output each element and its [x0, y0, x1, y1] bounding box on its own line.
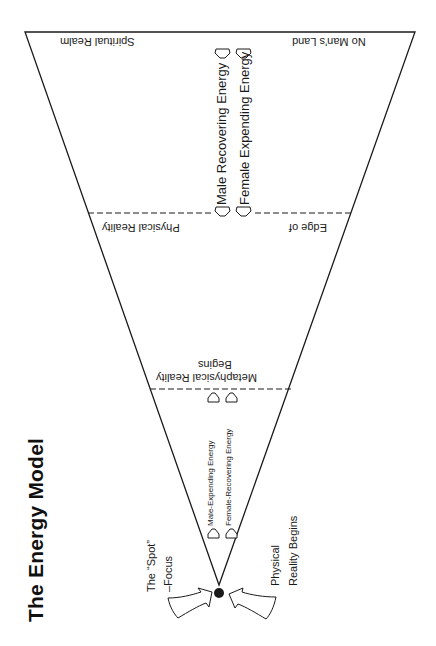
label-metaphysical-begins: Begins — [198, 359, 232, 370]
diagram-title: The Energy Model — [25, 438, 46, 622]
label-male-expending-energy: Male-Expending Energy — [207, 441, 215, 526]
label-the-spot: The “Spot” — [146, 540, 157, 592]
label-physical: Physical — [270, 545, 281, 586]
label-metaphysical-reality: Metaphysical Reality — [156, 372, 257, 383]
up-arrow-icon — [208, 393, 237, 402]
label-edge-of: Edge of — [289, 222, 327, 233]
spot-focus-arrow-icon — [168, 588, 212, 618]
label-spiritual-realm: Spiritual Realm — [60, 36, 135, 47]
spot-focus-dot — [214, 588, 224, 598]
physical-reality-arrow-icon — [229, 588, 276, 619]
label-female-recovering-energy: Female-Recovering Energy — [225, 429, 233, 526]
down-arrow-icon — [215, 207, 251, 216]
label-focus: –Focus — [163, 556, 174, 592]
label-physical-reality: Physical Reality — [102, 222, 180, 233]
up-arrow-icon — [208, 529, 237, 538]
label-male-recovering-energy: Male Recovering Energy — [215, 63, 228, 205]
label-reality-begins: Reality Begins — [288, 516, 299, 586]
label-female-expending-energy: Female Expending Energy — [238, 52, 251, 205]
label-no-mans-land: No Man's Land — [292, 36, 366, 47]
